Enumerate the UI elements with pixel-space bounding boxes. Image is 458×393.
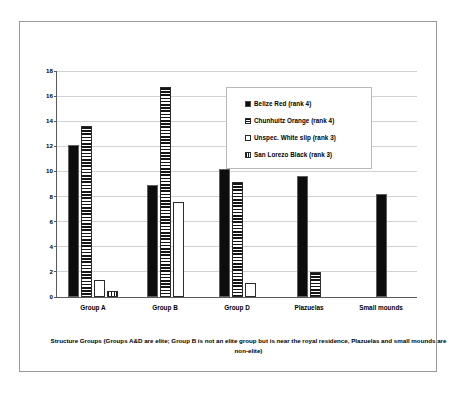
legend-item: Unspec. White slip (rank 3) [245,129,371,146]
x-axis-category-label: Small mounds [345,304,417,311]
x-axis-category-label: Group B [129,304,201,311]
bar [232,182,243,298]
legend-item-label: Unspec. White slip (rank 3) [254,134,336,141]
x-axis-category-label: Group A [57,304,129,311]
y-axis-tick-label: 2 [49,269,53,275]
bar-group: Group B [129,71,201,297]
legend-swatch-icon [245,101,251,107]
chart-legend: Belize Red (rank 4)Chunhuitz Orange (ran… [226,87,372,169]
bar [160,87,171,297]
y-axis-tick-label: 12 [46,143,53,149]
x-axis-category-label: Group D [201,304,273,311]
legend-item-label: San Lorezo Black (rank 3) [254,151,332,158]
bar [94,280,105,297]
y-axis-tick-label: 6 [49,219,53,225]
bar [173,202,184,297]
legend-item-label: Chunhuitz Orange (rank 4) [254,117,334,124]
y-axis-tick-label: 4 [49,244,53,250]
bar [376,194,387,297]
x-axis-caption: Structure Groups (Groups A&D are elite; … [47,336,450,355]
y-axis-tick-label: 8 [49,193,53,199]
bar [219,169,230,297]
bar [245,283,256,297]
bar [297,176,308,297]
legend-swatch-icon [245,118,251,124]
legend-swatch-icon [245,152,251,158]
y-axis-tick-label: 0 [49,294,53,300]
legend-swatch-icon [245,135,251,141]
x-axis-category-label: Plazuelas [273,304,345,311]
legend-item: San Lorezo Black (rank 3) [245,146,371,163]
bar [147,185,158,297]
bar [81,126,92,297]
legend-item-label: Belize Red (rank 4) [254,100,311,107]
y-axis-tick-label: 16 [46,93,53,99]
y-axis-tick-label: 18 [46,68,53,74]
bar-group: Group A [57,71,129,297]
bar [68,145,79,297]
chart-frame: 024681012141618Group AGroup BGroup DPlaz… [19,21,437,372]
bar [107,291,118,297]
legend-item: Chunhuitz Orange (rank 4) [245,112,371,129]
y-axis-tick-label: 14 [46,118,53,124]
legend-item: Belize Red (rank 4) [245,95,371,112]
bar [310,272,321,297]
y-axis-tick-label: 10 [46,168,53,174]
